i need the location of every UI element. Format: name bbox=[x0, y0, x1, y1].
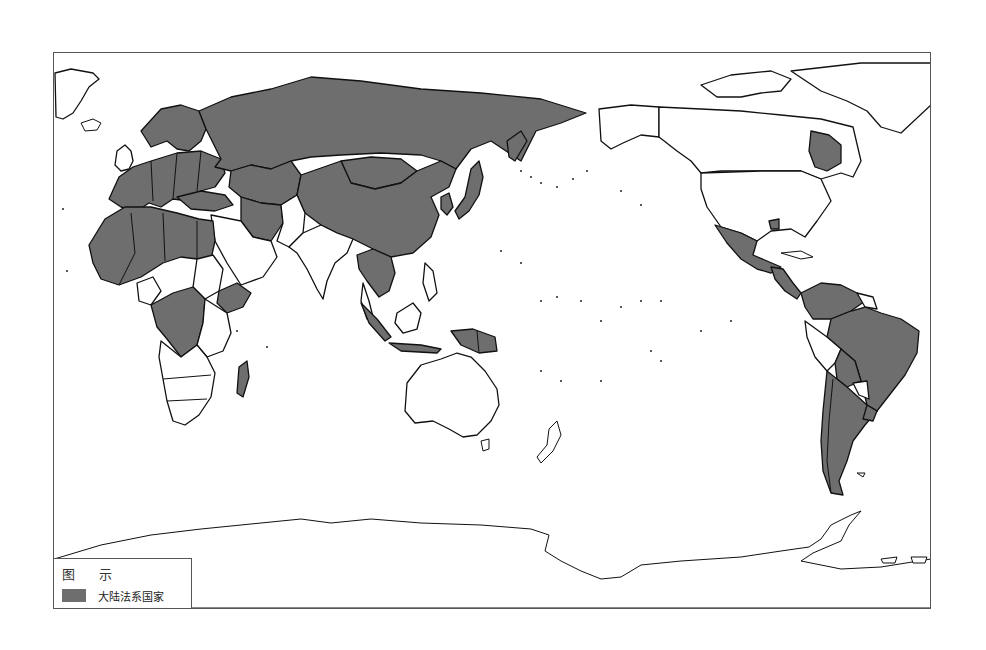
greenland-left bbox=[55, 69, 99, 119]
caribbean bbox=[781, 251, 813, 259]
legend-swatch-civil-law bbox=[62, 589, 86, 602]
antarctic-islands bbox=[881, 557, 927, 563]
russia bbox=[199, 77, 586, 171]
madagascar bbox=[237, 361, 249, 397]
borneo bbox=[395, 303, 421, 333]
scandinavia bbox=[141, 105, 206, 151]
tasmania bbox=[481, 439, 489, 451]
legend-title: 图 示 bbox=[62, 564, 122, 583]
map-legend: 图 示 大陆法系国家 bbox=[54, 558, 192, 608]
sumatra bbox=[361, 303, 391, 341]
new-guinea bbox=[451, 329, 497, 353]
louisiana bbox=[769, 219, 779, 229]
central-america bbox=[771, 267, 801, 299]
falklands bbox=[857, 473, 865, 477]
iceland bbox=[81, 119, 101, 131]
alaska bbox=[599, 105, 659, 149]
legend-label-civil-law: 大陆法系国家 bbox=[98, 588, 164, 604]
ethiopia bbox=[217, 283, 251, 313]
uk-ireland bbox=[115, 145, 133, 171]
java bbox=[389, 343, 441, 353]
world-map bbox=[54, 53, 930, 608]
korea bbox=[441, 193, 453, 215]
map-frame bbox=[53, 52, 931, 609]
canadian-arctic bbox=[701, 71, 791, 97]
japan bbox=[455, 161, 483, 219]
philippines bbox=[423, 263, 437, 301]
new-zealand bbox=[537, 421, 561, 463]
australia bbox=[405, 353, 499, 437]
